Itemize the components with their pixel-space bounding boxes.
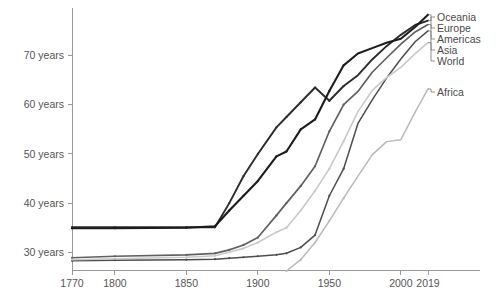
y-tick-label-30: 30 years: [24, 246, 64, 258]
marker-europe-1870: [214, 225, 216, 227]
marker-oceania-1950: [328, 100, 330, 102]
marker-asia-1940: [314, 234, 316, 236]
marker-europe-1920: [285, 150, 287, 152]
legend-leader-asia: [428, 31, 435, 50]
legend: OceaniaEuropeAmericasAsiaWorldAfrica: [428, 11, 481, 98]
series-line-europe: [72, 15, 428, 229]
marker-americas-1870: [214, 252, 216, 254]
marker-world-1913: [275, 231, 277, 233]
marker-world-1880: [228, 251, 230, 253]
legend-label-africa[interactable]: Africa: [437, 86, 464, 98]
marker-asia-1913: [275, 254, 277, 256]
marker-world-1950: [328, 168, 330, 170]
marker-africa-1940: [314, 241, 316, 243]
x-axis: 1770180018501900195020002019: [60, 270, 480, 289]
marker-world-1850: [185, 256, 187, 258]
legend-label-world[interactable]: World: [437, 55, 464, 67]
marker-europe-1770: [71, 227, 73, 229]
marker-oceania-1960: [343, 85, 345, 87]
marker-europe-1800: [114, 227, 116, 229]
marker-americas-1800: [114, 255, 116, 257]
legend-leader-americas: [428, 25, 435, 40]
marker-europe-1940: [314, 118, 316, 120]
marker-world-1960: [343, 140, 345, 142]
marker-europe-1850: [185, 227, 187, 229]
series-line-americas: [72, 25, 428, 258]
marker-asia-1850: [185, 259, 187, 261]
marker-world-1770: [71, 259, 73, 261]
marker-oceania-1930: [300, 101, 302, 103]
legend-leader-world: [428, 43, 435, 61]
marker-europe-1960: [343, 64, 345, 66]
marker-americas-1930: [300, 185, 302, 187]
marker-americas-1770: [71, 257, 73, 259]
marker-oceania-1900: [257, 153, 259, 155]
marker-americas-1850: [185, 254, 187, 256]
marker-africa-1950: [328, 220, 330, 222]
marker-americas-1913: [275, 214, 277, 216]
marker-world-1900: [257, 241, 259, 243]
series-line-africa: [286, 89, 428, 271]
marker-americas-1880: [228, 249, 230, 251]
x-tick-label-2019: 2019: [416, 277, 440, 289]
marker-asia-1870: [214, 258, 216, 260]
marker-asia-1960: [343, 168, 345, 170]
legend-leader-africa: [428, 89, 435, 92]
marker-americas-1900: [257, 236, 259, 238]
x-tick-label-1800: 1800: [103, 277, 127, 289]
marker-africa-1960: [343, 197, 345, 199]
x-tick-label-1770: 1770: [60, 277, 84, 289]
marker-world-1930: [300, 209, 302, 211]
marker-oceania-1880: [228, 202, 230, 204]
marker-oceania-1920: [285, 116, 287, 118]
marker-asia-1950: [328, 195, 330, 197]
marker-americas-1950: [328, 130, 330, 132]
marker-asia-1930: [300, 246, 302, 248]
marker-world-1870: [214, 255, 216, 257]
marker-world-1920: [285, 227, 287, 229]
y-tick-label-50: 50 years: [24, 148, 64, 160]
x-tick-label-2000: 2000: [389, 277, 413, 289]
marker-americas-1920: [285, 202, 287, 204]
chart-plot-area: 30 years40 years50 years60 years70 years…: [0, 0, 500, 299]
x-tick-label-1900: 1900: [246, 277, 270, 289]
marker-europe-1950: [328, 90, 330, 92]
marker-americas-1890: [242, 244, 244, 246]
marker-europe-1930: [300, 128, 302, 130]
marker-oceania-1890: [242, 175, 244, 177]
marker-europe-1913: [275, 155, 277, 157]
life-expectancy-chart: 30 years40 years50 years60 years70 years…: [0, 0, 500, 299]
marker-europe-1900: [257, 180, 259, 182]
legend-leader-oceania: [428, 17, 435, 21]
marker-africa-1920: [285, 270, 287, 272]
x-tick-label-1950: 1950: [318, 277, 342, 289]
data-point-markers: [71, 64, 345, 272]
marker-world-1890: [242, 247, 244, 249]
marker-asia-1890: [242, 256, 244, 258]
series-lines: [72, 15, 428, 271]
marker-world-1940: [314, 190, 316, 192]
marker-europe-1890: [242, 195, 244, 197]
x-tick-label-1850: 1850: [175, 277, 199, 289]
marker-africa-1930: [300, 259, 302, 261]
marker-europe-1880: [228, 209, 230, 211]
y-tick-label-70: 70 years: [24, 49, 64, 61]
y-tick-label-60: 60 years: [24, 98, 64, 110]
marker-asia-1880: [228, 257, 230, 259]
marker-oceania-1940: [314, 86, 316, 88]
marker-oceania-1913: [275, 126, 277, 128]
marker-asia-1900: [257, 255, 259, 257]
series-line-oceania: [72, 21, 428, 228]
series-line-asia: [72, 31, 428, 261]
marker-asia-1920: [285, 252, 287, 254]
marker-world-1800: [114, 258, 116, 260]
y-axis: 30 years40 years50 years60 years70 years: [24, 8, 72, 270]
marker-americas-1960: [343, 104, 345, 106]
y-tick-label-40: 40 years: [24, 197, 64, 209]
marker-americas-1940: [314, 165, 316, 167]
